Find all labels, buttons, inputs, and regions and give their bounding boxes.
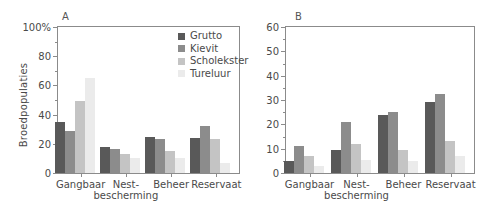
y-tick-b-60 [281,27,286,28]
y-tick-label-b-10: 10 [266,143,279,154]
y-tick-a-40 [53,115,58,116]
y-tick-b-20 [281,124,286,125]
figure-root: Broedpopulaties A 020406080100%GangbaarN… [0,0,499,215]
bar-a-reservaat-scholekster [210,139,220,173]
bar-a-nestbescherming-scholekster [120,154,130,173]
bar-b-reservaat-kievit [435,94,445,173]
bar-b-nestbescherming-tureluur [361,160,371,173]
y-tick-label-a-100: 100% [22,22,51,33]
legend-swatch-icon-scholekster [178,58,185,65]
panel-b: B 0102030405060GangbaarNest-beschermingB… [250,0,499,215]
bar-a-reservaat-kievit [200,126,210,173]
panel-label-a: A [62,11,69,22]
y-tick-label-a-40: 40 [38,109,51,120]
bar-a-nestbescherming-grutto [100,147,110,173]
y-tick-b-10 [281,149,286,150]
bar-a-reservaat-tureluur [220,163,230,173]
y-tick-label-a-80: 80 [38,51,51,62]
panel-label-b: B [295,11,302,22]
legend-swatch-icon-kievit [178,45,185,52]
legend-item-scholekster[interactable]: Scholekster [178,55,248,68]
y-tick-minor [55,100,58,101]
x-category-label-line2: bescherming [324,190,389,201]
legend-item-tureluur[interactable]: Tureluur [178,68,248,81]
x-tick [81,173,82,177]
bar-a-gangbaar-scholekster [75,101,85,173]
y-tick-label-b-60: 60 [266,22,279,33]
y-tick-minor [283,137,286,138]
legend-swatch-icon-tureluur [178,70,185,77]
y-tick-label-b-30: 30 [266,95,279,106]
bar-b-gangbaar-scholekster [304,156,314,173]
bar-b-gangbaar-grutto [284,161,294,173]
legend-label: Kievit [190,43,218,56]
x-tick [171,173,172,177]
y-tick-a-80 [53,56,58,57]
x-tick [404,173,405,177]
y-tick-label-b-20: 20 [266,119,279,130]
bar-b-nestbescherming-kievit [341,122,351,173]
bar-b-beheer-grutto [378,115,388,173]
bar-b-beheer-tureluur [408,161,418,173]
plot-area-b: 0102030405060GangbaarNest-beschermingBeh… [285,26,475,174]
y-tick-label-b-0: 0 [273,168,279,179]
bar-a-gangbaar-grutto [55,122,65,173]
y-tick-label-a-60: 60 [38,80,51,91]
y-tick-minor [283,64,286,65]
legend-label: Grutto [190,30,222,43]
y-tick-minor [55,42,58,43]
y-tick-label-b-40: 40 [266,70,279,81]
bar-b-reservaat-tureluur [455,156,465,173]
y-tick-b-30 [281,100,286,101]
y-tick-a-60 [53,85,58,86]
bar-a-nestbescherming-tureluur [130,158,140,173]
bar-b-gangbaar-tureluur [314,166,324,173]
bar-a-beheer-kievit [155,139,165,173]
y-tick-a-100 [53,27,58,28]
bar-a-reservaat-grutto [190,138,200,173]
bar-b-beheer-scholekster [398,150,408,173]
y-tick-minor [55,71,58,72]
y-tick-minor [283,39,286,40]
bar-a-beheer-grutto [145,137,155,174]
bar-b-beheer-kievit [388,112,398,173]
x-category-label-nestbescherming: Nest-bescherming [93,179,158,201]
legend-label: Scholekster [190,55,248,68]
x-category-label-beheer: Beheer [386,179,422,190]
x-category-label-nestbescherming: Nest-bescherming [324,179,389,201]
x-tick [451,173,452,177]
x-tick [126,173,127,177]
bar-a-nestbescherming-kievit [110,149,120,173]
x-category-label-beheer: Beheer [153,179,189,190]
x-category-label-reservaat: Reservaat [191,179,241,190]
legend-item-kievit[interactable]: Kievit [178,43,248,56]
bar-b-nestbescherming-grutto [331,150,341,173]
x-tick [216,173,217,177]
x-category-label-reservaat: Reservaat [425,179,475,190]
legend: GruttoKievitScholeksterTureluur [178,30,248,80]
y-tick-b-40 [281,76,286,77]
y-tick-b-50 [281,51,286,52]
bar-b-reservaat-scholekster [445,141,455,173]
bar-a-gangbaar-tureluur [85,78,95,173]
y-tick-a-0 [53,173,58,174]
bar-a-gangbaar-kievit [65,131,75,173]
y-tick-b-0 [281,173,286,174]
x-tick [357,173,358,177]
y-tick-minor [283,88,286,89]
legend-item-grutto[interactable]: Grutto [178,30,248,43]
legend-label: Tureluur [190,68,231,81]
y-tick-label-b-50: 50 [266,46,279,57]
y-tick-label-a-0: 0 [45,168,51,179]
x-tick [310,173,311,177]
bar-b-reservaat-grutto [425,102,435,173]
bar-b-gangbaar-kievit [294,146,304,173]
y-axis-title-a: Broedpopulaties [18,30,29,180]
x-category-label-line2: bescherming [93,190,158,201]
y-tick-minor [283,112,286,113]
legend-swatch-icon-grutto [178,33,185,40]
y-tick-label-a-20: 20 [38,138,51,149]
bar-a-beheer-scholekster [165,151,175,173]
bar-a-beheer-tureluur [175,158,185,173]
bar-b-nestbescherming-scholekster [351,144,361,173]
